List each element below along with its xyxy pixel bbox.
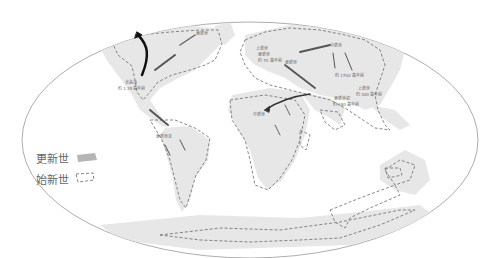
map-label: 北美洲 — [125, 80, 137, 85]
legend-label-pleistocene: 更新世 — [36, 150, 69, 166]
map-label: 上新世 — [256, 46, 268, 51]
map-label: 更新世 — [196, 31, 208, 36]
legend-label-eocene: 始新世 — [36, 171, 69, 187]
map-label: 中新世 — [330, 43, 342, 48]
world-map — [0, 0, 480, 258]
map-label: 中新世 — [253, 112, 265, 117]
map-label: 約 1.35 萬年前 — [118, 86, 145, 91]
map-label: 約 1700 萬年前 — [335, 73, 364, 78]
map-label: 更新世初 — [334, 96, 350, 101]
map-label: 約 70 萬年前 — [258, 58, 282, 63]
map-label: 更新世末 — [156, 134, 172, 139]
map-label: 更新世 — [285, 60, 297, 65]
map-label: 更新世 — [258, 52, 270, 57]
map-label: 上新世 — [358, 86, 370, 91]
map-label: 約 180 萬年前 — [333, 102, 359, 107]
map-label: 約 300 萬年前 — [356, 92, 382, 97]
